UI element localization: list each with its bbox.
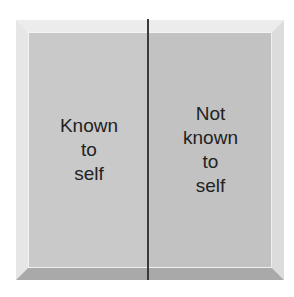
beveled-square-frame: Known to self Not known to self	[16, 20, 284, 280]
label-line: self	[183, 174, 238, 198]
bevel-left-edge	[16, 20, 28, 280]
pane-not-known-to-self: Not known to self	[150, 33, 271, 267]
pane-label-not-known-to-self: Not known to self	[183, 102, 238, 198]
label-line: self	[60, 162, 118, 186]
label-line: Known	[60, 114, 118, 138]
vertical-divider-line	[147, 19, 149, 280]
label-line: to	[183, 150, 238, 174]
bevel-top-edge	[16, 20, 284, 32]
bevel-right-edge	[272, 20, 284, 280]
label-line: known	[183, 126, 238, 150]
square-face: Known to self Not known to self	[28, 32, 272, 268]
bevel-bottom-edge	[16, 268, 284, 280]
pane-label-known-to-self: Known to self	[60, 114, 118, 186]
label-line: Not	[183, 102, 238, 126]
pane-known-to-self: Known to self	[29, 33, 149, 267]
label-line: to	[60, 138, 118, 162]
